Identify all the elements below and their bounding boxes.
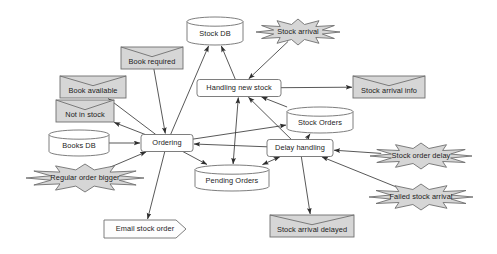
node-label-stock_arr_delayed: Stock arrival delayed: [277, 226, 347, 233]
node-label-book_available: Book available: [68, 87, 117, 94]
node-label-delay_handling: Delay handling: [275, 144, 325, 151]
node-label-not_in_stock: Not in stock: [65, 111, 105, 118]
shape-layer: [0, 0, 497, 254]
diagram-canvas: Stock DBStock arrivalBook requiredHandli…: [0, 0, 497, 254]
node-label-stock_orders: Stock Orders: [298, 119, 342, 126]
node-label-ordering: Ordering: [152, 139, 181, 146]
node-label-stock_order_delay: Stock order delay: [392, 152, 451, 159]
node-label-handling_new_stock: Handling new stock: [206, 84, 271, 91]
node-label-books_db: Books DB: [62, 142, 95, 149]
node-label-email_stock_order: Email stock order: [116, 225, 174, 232]
node-label-stock_db: Stock DB: [199, 30, 230, 37]
node-label-regular_order: Regular order bigger: [50, 174, 119, 181]
node-label-book_required: Book required: [129, 58, 176, 65]
node-label-failed_stock: Failed stock arrival: [389, 193, 452, 200]
node-label-stock_arrival_info: Stock arrival info: [361, 87, 417, 94]
node-label-pending_orders: Pending Orders: [206, 177, 259, 184]
node-label-stock_arrival: Stock arrival: [277, 28, 319, 35]
